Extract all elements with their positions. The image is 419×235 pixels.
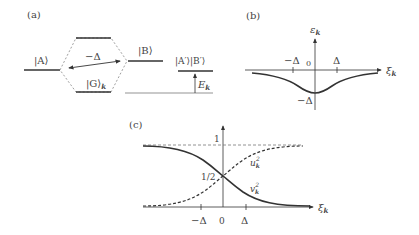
c-x-label: ξk (318, 202, 329, 215)
panel-c-label: (c) (129, 119, 143, 130)
c-tick-neg-label: −Δ (191, 215, 207, 226)
figure: (a) |A⟩ |G⟩k −Δ |B⟩ |A′⟩|B′⟩ Ek (b) εk ξ… (0, 0, 419, 235)
b-tick-neg-label: −Δ (284, 55, 300, 66)
c-tick-pos-label: Δ (241, 215, 248, 226)
b-y-label: εk (310, 24, 320, 37)
panel-c: (c) ξk 1 1/2 −Δ 0 Δ uk2 vk2 (129, 119, 329, 226)
state-B-label: |B⟩ (138, 45, 153, 57)
b-tick-pos-label: Δ (333, 55, 340, 66)
state-G-label: |G⟩k (86, 78, 106, 91)
c-level-one-label: 1 (214, 134, 220, 144)
panel-a-label: (a) (27, 9, 41, 20)
energy-label: Ek (197, 79, 210, 92)
panel-b-label: (b) (246, 10, 260, 21)
c-tick-zero-label: 0 (219, 216, 225, 226)
state-A-label: |A⟩ (34, 55, 49, 67)
b-min-label: −Δ (297, 95, 313, 106)
c-level-half-label: 1/2 (201, 172, 215, 182)
c-u-label: uk2 (250, 155, 260, 169)
c-v-squared-curve (143, 146, 310, 206)
delta-double-arrow (69, 61, 120, 68)
b-tick-zero-label: 0 (306, 59, 311, 68)
state-ApBp-label: |A′⟩|B′⟩ (175, 56, 205, 67)
panel-a: (a) |A⟩ |G⟩k −Δ |B⟩ |A′⟩|B′⟩ Ek (24, 9, 213, 93)
delta-label: −Δ (85, 51, 101, 62)
c-v-label: vk2 (250, 181, 259, 195)
b-x-label: ξk (386, 65, 397, 78)
panel-b: (b) εk ξk −Δ 0 Δ −Δ (245, 10, 397, 110)
